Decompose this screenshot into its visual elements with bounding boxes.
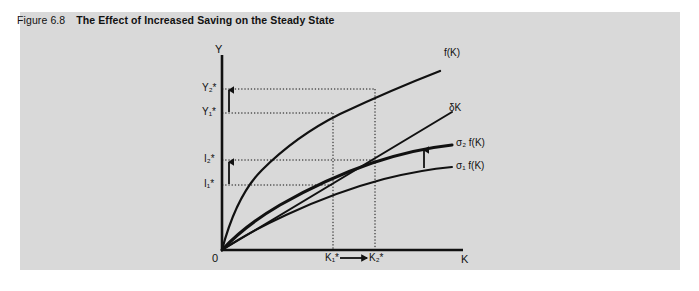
ytick-label-I2: I₂* bbox=[204, 154, 215, 164]
curve-label-sigma2-fK: σ₂ f(K) bbox=[456, 138, 485, 148]
curve-saving-sigma1-fK bbox=[222, 167, 452, 250]
ytick-label-Y1: Y₁* bbox=[202, 107, 216, 117]
ytick-label-I1: I₁* bbox=[204, 179, 214, 189]
xtick-label-K1: K₁* bbox=[325, 253, 339, 263]
curve-label-fK: f(K) bbox=[444, 48, 460, 58]
origin-label: 0 bbox=[212, 253, 218, 264]
xtick-label-K2: K₂* bbox=[369, 253, 383, 263]
y-axis-label: Y bbox=[215, 44, 222, 55]
steady-state-chart bbox=[0, 0, 699, 291]
curve-label-deltaK: δK bbox=[449, 103, 461, 113]
ytick-label-Y2: Y₂* bbox=[202, 83, 216, 93]
curve-saving-sigma2-fK bbox=[222, 145, 452, 250]
curve-label-sigma1-fK: σ₁ f(K) bbox=[456, 161, 484, 171]
x-axis-label: K bbox=[461, 254, 468, 265]
